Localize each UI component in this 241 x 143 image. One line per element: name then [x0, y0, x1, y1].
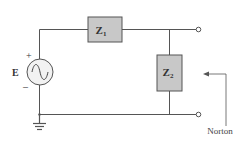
- terminal-top: [196, 27, 201, 32]
- terminal-bottom: [196, 112, 201, 117]
- norton-arrow-icon: [203, 72, 226, 127]
- z2-label: Z: [163, 66, 170, 78]
- circuit-diagram: Z1 Z2 + E – Norton: [0, 0, 241, 143]
- source-label: E: [12, 67, 19, 78]
- impedance-z2: Z2: [157, 55, 182, 91]
- z1-label: Z: [96, 24, 103, 36]
- source-minus: –: [22, 81, 29, 92]
- impedance-z1: Z1: [88, 17, 122, 42]
- source-plus: +: [26, 50, 32, 61]
- z1-subscript: 1: [103, 30, 107, 38]
- ground-icon: [33, 115, 46, 130]
- ac-source-icon: [27, 59, 53, 85]
- norton-label: Norton: [207, 126, 233, 136]
- z2-subscript: 2: [170, 72, 174, 80]
